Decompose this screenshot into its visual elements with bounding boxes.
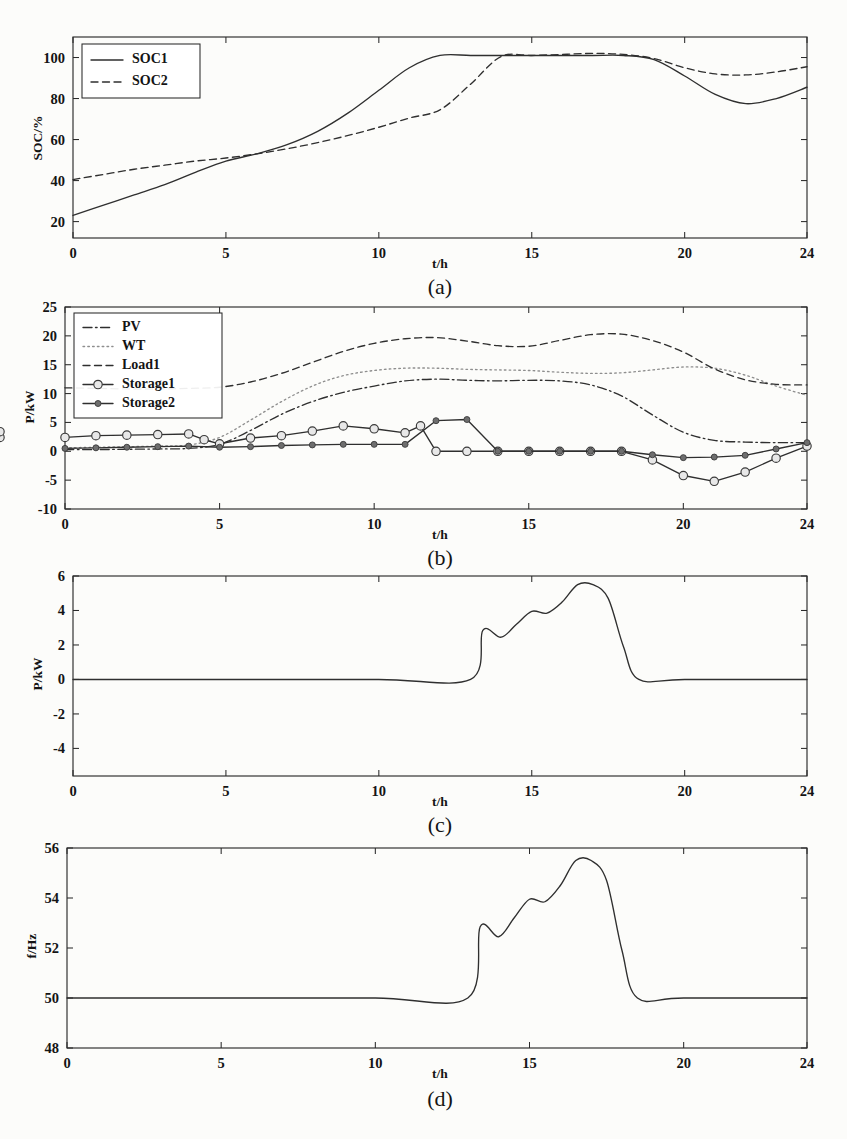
marker-point [154, 430, 162, 438]
y-tick-label: 0 [50, 443, 57, 459]
x-tick-label: 24 [800, 245, 815, 261]
marker-point [680, 455, 686, 461]
subplot-c-plot: 0510152024-4-20246 [53, 568, 814, 799]
x-tick-label: 15 [522, 516, 537, 532]
y-tick-label: 60 [51, 132, 66, 148]
marker-point [184, 430, 192, 438]
x-tick-label: 20 [677, 245, 692, 261]
subplot-d-plot: 05101520244850525456 [45, 840, 815, 1071]
subplot-b-canvas: 0510152024-10-50510152025PVWTLoad1Storag… [0, 287, 847, 572]
y-tick-label: 50 [45, 990, 60, 1006]
y-tick-label: -10 [38, 501, 57, 517]
marker-point [619, 448, 625, 454]
marker-point [246, 434, 254, 442]
marker-point [588, 448, 594, 454]
marker-point [463, 447, 471, 455]
marker-point [277, 432, 285, 440]
x-tick-label: 10 [372, 245, 387, 261]
x-tick-label: 24 [800, 783, 815, 799]
marker-point [772, 454, 780, 462]
y-tick-label: -5 [45, 472, 57, 488]
marker-point [557, 448, 563, 454]
subplot-c-ylabel: P/kW [30, 657, 45, 691]
x-tick-label: 24 [800, 1055, 815, 1071]
subplot-c: 0510152024-4-20246 t/h (c) P/kW [0, 556, 847, 838]
marker-point [742, 452, 748, 458]
marker-point [0, 427, 4, 435]
x-tick-label: 20 [676, 516, 691, 532]
marker-point [432, 447, 440, 455]
subplot-a-plot: 051015202420406080100SOC1SOC2 [43, 37, 814, 261]
marker-point [62, 445, 68, 451]
marker-point [526, 448, 532, 454]
marker-point [464, 417, 470, 423]
marker-point [371, 441, 377, 447]
x-tick-label: 15 [525, 245, 540, 261]
marker-point [339, 422, 347, 430]
marker-point [741, 468, 749, 476]
x-tick-label: 24 [800, 516, 815, 532]
marker-point [711, 454, 717, 460]
legend-label: SOC1 [132, 51, 168, 66]
marker-point [278, 443, 284, 449]
x-tick-label: 5 [218, 1055, 225, 1071]
marker-point [340, 441, 346, 447]
marker-point [402, 441, 408, 447]
x-tick-label: 5 [222, 245, 229, 261]
y-tick-label: 54 [45, 890, 60, 906]
marker-point [217, 444, 223, 450]
marker-point [123, 431, 131, 439]
y-tick-label: 40 [51, 173, 66, 189]
x-tick-label: 10 [372, 783, 387, 799]
marker-point [155, 444, 161, 450]
marker-point [710, 477, 718, 485]
y-tick-label: 20 [43, 328, 58, 344]
subplot-c-xlabel: t/h [432, 794, 448, 809]
subplot-a-canvas: 051015202420406080100SOC1SOC2 t/h (a) SO… [0, 0, 847, 300]
subplot-d-caption: (d) [427, 1086, 453, 1111]
subplot-a: 051015202420406080100SOC1SOC2 t/h (a) SO… [0, 0, 847, 300]
subplot-a-ylabel: SOC/% [30, 115, 45, 160]
subplot-b-plot: 0510152024-10-50510152025PVWTLoad1Storag… [0, 299, 814, 532]
x-tick-label: 20 [677, 783, 692, 799]
legend-label: Load1 [122, 357, 160, 372]
marker-point [93, 445, 99, 451]
y-tick-label: 25 [43, 299, 58, 315]
legend-marker [95, 401, 101, 407]
subplot-b: 0510152024-10-50510152025PVWTLoad1Storag… [0, 287, 847, 572]
x-tick-label: 0 [69, 783, 76, 799]
subplot-d-canvas: 05101520244850525456 t/h (d) f/Hz [0, 828, 847, 1139]
marker-point [401, 429, 409, 437]
y-tick-label: 5 [50, 414, 57, 430]
y-tick-label: 0 [58, 671, 65, 687]
marker-point [773, 446, 779, 452]
marker-point [495, 448, 501, 454]
series-power [73, 583, 807, 683]
legend-label: SOC2 [132, 73, 168, 88]
subplot-c-canvas: 0510152024-4-20246 t/h (c) P/kW [0, 556, 847, 838]
y-tick-label: 48 [45, 1040, 60, 1056]
x-tick-label: 15 [522, 1055, 537, 1071]
marker-point [309, 442, 315, 448]
y-tick-label: -4 [53, 740, 65, 756]
x-tick-label: 0 [63, 1055, 70, 1071]
marker-point [649, 452, 655, 458]
x-tick-label: 10 [368, 1055, 383, 1071]
y-tick-label: 10 [43, 386, 58, 402]
marker-point [433, 418, 439, 424]
y-tick-label: 100 [43, 50, 65, 66]
figure-root: 051015202420406080100SOC1SOC2 t/h (a) SO… [0, 0, 847, 1139]
marker-point [124, 444, 130, 450]
subplot-d-ylabel: f/Hz [24, 934, 39, 959]
series-frequency [67, 858, 807, 1004]
legend-label: WT [122, 338, 146, 353]
marker-point [370, 425, 378, 433]
marker-point [200, 436, 208, 444]
x-tick-label: 15 [525, 783, 540, 799]
subplot-d-xlabel: t/h [432, 1066, 448, 1081]
marker-point [92, 432, 100, 440]
x-tick-label: 5 [216, 516, 223, 532]
marker-point [416, 422, 424, 430]
marker-point [61, 433, 69, 441]
legend-label: Storage1 [122, 376, 175, 391]
